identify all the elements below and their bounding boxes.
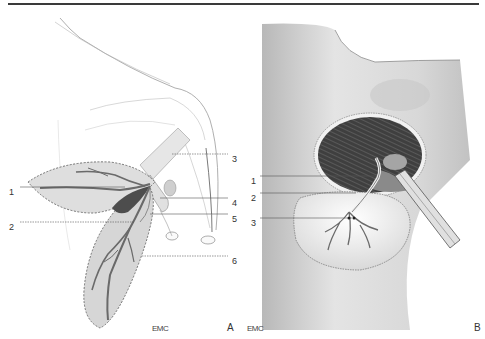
panel-b-illustration xyxy=(245,6,485,339)
callout-a-2: 2 xyxy=(9,223,14,232)
panel-a: 1 2 3 4 5 6 EMC A xyxy=(0,6,250,339)
callout-a-5: 5 xyxy=(232,215,237,224)
callout-a-3: 3 xyxy=(232,155,237,164)
callout-b-2: 2 xyxy=(251,194,256,203)
callout-a-6: 6 xyxy=(232,257,237,266)
callout-b-3: 3 xyxy=(251,219,256,228)
top-rule xyxy=(8,3,479,5)
callout-a-4: 4 xyxy=(232,199,237,208)
panel-letter-a: A xyxy=(227,322,234,333)
panel-b: 1 2 3 EMC B xyxy=(245,6,485,339)
panel-a-illustration xyxy=(0,6,250,339)
emc-watermark-a: EMC xyxy=(152,324,168,333)
callout-b-1: 1 xyxy=(251,177,256,186)
emc-watermark-b: EMC xyxy=(247,324,263,333)
callout-a-1: 1 xyxy=(9,188,14,197)
panel-letter-b: B xyxy=(474,322,481,333)
